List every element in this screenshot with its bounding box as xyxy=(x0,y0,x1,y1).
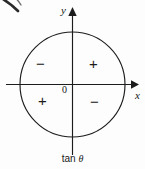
x-axis-label: x xyxy=(135,90,140,101)
origin-label: 0 xyxy=(62,85,67,95)
y-axis-label: y xyxy=(61,5,66,16)
quadrant-2-sign: − xyxy=(36,56,45,71)
quadrant-3-sign: + xyxy=(38,93,47,108)
arrow-up-icon xyxy=(68,7,76,16)
caption-theta-symbol: θ xyxy=(78,153,83,164)
tan-theta-sign-diagram: y x 0 − + + − tan θ xyxy=(0,0,145,169)
figure-caption: tan θ xyxy=(0,153,145,164)
caption-function-name: tan xyxy=(62,153,79,164)
quadrant-1-sign: + xyxy=(89,56,98,71)
quadrant-4-sign: − xyxy=(90,94,99,109)
diagram-canvas xyxy=(0,0,145,169)
arrow-right-icon xyxy=(131,80,139,89)
